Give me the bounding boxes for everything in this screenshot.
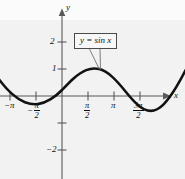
x-tick-label-neg-pi: −π: [4, 101, 15, 110]
fraction: π 2: [84, 101, 90, 119]
x-tick-label-neg-pi-over-2: − π 2: [27, 101, 40, 119]
equation-callout: y = sin x: [74, 33, 117, 49]
fraction: 3π 2: [133, 101, 144, 119]
minus-sign: −: [27, 106, 33, 115]
y-tick-label-neg2: −2: [46, 145, 57, 154]
x-tick-label-pi: π: [111, 101, 116, 110]
y-tick-label-1: 1: [52, 64, 57, 73]
x-axis: [0, 93, 171, 100]
sine-function-figure: y = sin x y x 2 1 −2 −π − π 2 π 2 π 3π 2: [0, 0, 185, 179]
plot-canvas: [0, 0, 185, 179]
fraction-denominator: 2: [133, 111, 144, 120]
fraction-denominator: 2: [84, 111, 90, 120]
y-tick-label-2: 2: [50, 37, 55, 46]
x-tick-label-pi-over-2: π 2: [84, 101, 90, 119]
fraction-denominator: 2: [34, 111, 40, 120]
x-axis-label: x: [174, 91, 178, 100]
x-tick-label-three-pi-over-2: 3π 2: [133, 101, 144, 119]
y-axis-label: y: [66, 3, 70, 12]
fraction: π 2: [34, 101, 40, 119]
callout-leader-lines: [89, 48, 101, 70]
